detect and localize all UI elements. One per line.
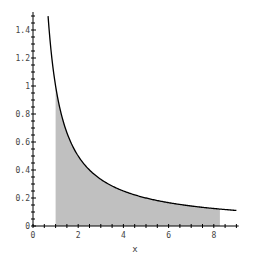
y-tick-label: 0.4 [16, 166, 31, 175]
x-tick-label: 8 [211, 231, 216, 240]
y-tick-label: 1 [25, 82, 30, 91]
shaded-area [56, 86, 220, 226]
x-tick-label: 4 [121, 231, 126, 240]
y-tick-label: 0 [25, 222, 30, 231]
area-under-curve-chart: 00.20.40.60.811.21.4 02468 x [0, 0, 255, 273]
y-tick-label: 0.6 [16, 138, 31, 147]
x-tick-label: 2 [76, 231, 81, 240]
shaded-region [56, 86, 220, 226]
x-tick-label: 0 [31, 231, 36, 240]
y-tick-label: 1.4 [16, 26, 31, 35]
y-tick-label: 1.2 [16, 54, 31, 63]
x-axis-label: x [132, 244, 138, 254]
y-tick-label: 0.8 [16, 110, 31, 119]
x-tick-label: 6 [166, 231, 171, 240]
y-tick-label: 0.2 [16, 194, 31, 203]
